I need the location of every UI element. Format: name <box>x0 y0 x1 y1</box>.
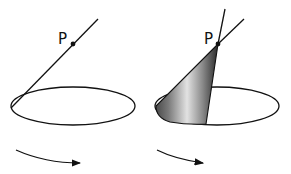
point-p-right <box>216 42 221 47</box>
right-panel <box>155 9 279 163</box>
rotation-arrow-left-icon <box>16 150 80 163</box>
cone-surface <box>156 44 218 124</box>
point-p-left <box>71 42 76 47</box>
generator-line-left <box>11 19 98 108</box>
cone-generation-diagram <box>0 0 291 174</box>
left-panel <box>11 19 135 163</box>
rotation-arrow-right-icon <box>157 150 203 163</box>
point-p-label-right: P <box>204 32 213 47</box>
base-ellipse-left <box>11 87 135 125</box>
point-p-label-left: P <box>58 32 67 47</box>
